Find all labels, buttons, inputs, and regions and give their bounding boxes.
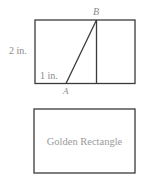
- point-b-label: B: [93, 7, 99, 17]
- caption-text: Golden Rectangle: [47, 136, 123, 147]
- golden-rectangle-caption: Golden Rectangle: [34, 109, 135, 173]
- diagonal-segment-ab: [66, 20, 97, 84]
- base-label: 1 in.: [40, 71, 58, 81]
- point-a-label: A: [63, 86, 69, 96]
- height-label: 2 in.: [9, 46, 27, 56]
